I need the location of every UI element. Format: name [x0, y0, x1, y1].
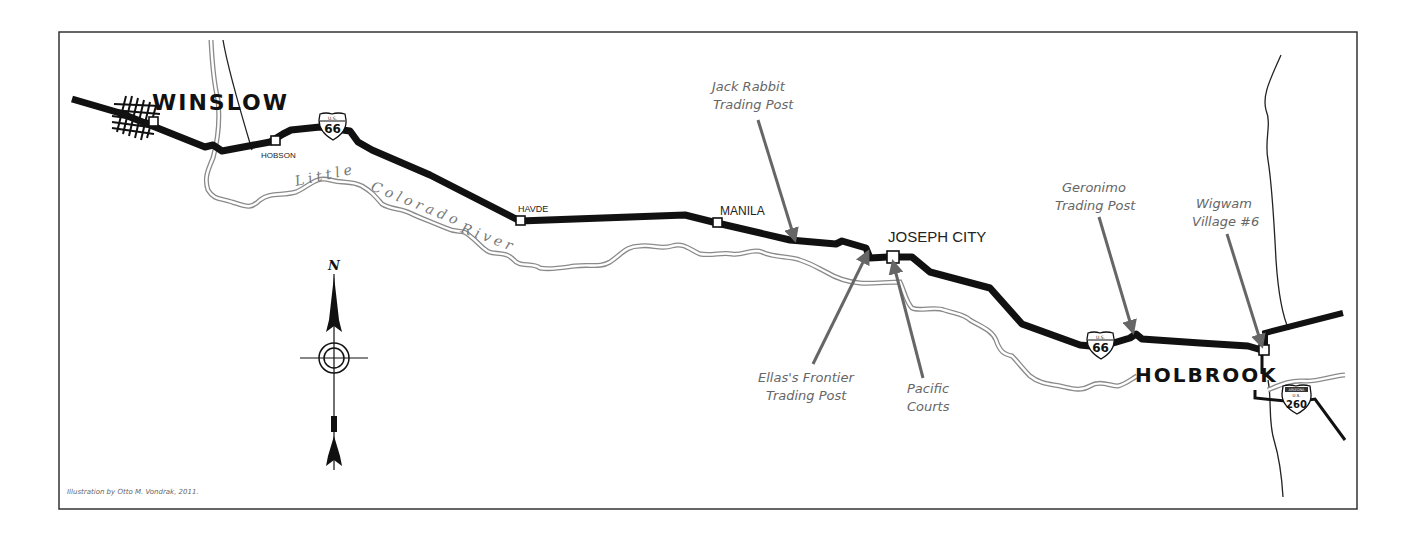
svg-text:Wigwam: Wigwam [1196, 196, 1252, 211]
svg-text:Courts: Courts [907, 399, 950, 414]
us66-shield-west: U.S. 66 [319, 113, 346, 140]
us66-shield-east: U.S. 66 [1087, 332, 1114, 359]
us260-shield: ARIZONA U.S. 260 [1282, 385, 1311, 414]
arrow-jack-rabbit [758, 120, 795, 240]
svg-text:Trading Post: Trading Post [1055, 198, 1136, 213]
svg-text:Ellas's Frontier: Ellas's Frontier [758, 370, 855, 385]
poi-wigwam-line2: Village #6 [1192, 214, 1259, 229]
town-markers [149, 117, 1269, 355]
town-label-holbrook: HOLBROOK [1135, 363, 1278, 387]
svg-text:Geronimo: Geronimo [1062, 180, 1126, 195]
svg-text:Jack Rabbit: Jack Rabbit [709, 79, 786, 94]
shield-top: U.S. [1292, 393, 1300, 398]
poi-jack-rabbit-line2: Trading Post [713, 97, 794, 112]
poi-ellas-line1: Ellas's Frontier [758, 370, 855, 385]
town-label-joseph-city: JOSEPH CITY [888, 228, 986, 245]
shield-number: 66 [324, 122, 341, 136]
svg-text:Trading Post: Trading Post [766, 388, 847, 403]
shield-top: U.S. [328, 116, 337, 121]
poi-geronimo-line2: Trading Post [1055, 198, 1136, 213]
shield-number: 260 [1286, 399, 1307, 410]
havde-marker [516, 216, 525, 225]
joseph-city-marker [887, 251, 899, 263]
poi-ellas-line2: Trading Post [766, 388, 847, 403]
town-label-havde: HAVDE [518, 204, 548, 214]
poi-wigwam-line1: Wigwam [1196, 196, 1252, 211]
svg-text:Trading Post: Trading Post [713, 97, 794, 112]
illustration-credit: Illustration by Otto M. Vondrak, 2011. [67, 488, 199, 496]
route-map: Little Colorado River WINSLOW HOBSON HAV… [0, 0, 1420, 537]
town-label-winslow: WINSLOW [152, 90, 289, 115]
poi-pacific-line1: Pacific [907, 381, 949, 396]
svg-text:Village #6: Village #6 [1192, 214, 1259, 229]
holbrook-marker [1259, 345, 1269, 355]
compass-rose: N [300, 258, 368, 470]
north-arrow-icon [326, 276, 342, 332]
north-label: N [327, 258, 341, 273]
route-66-east-road [1265, 313, 1343, 351]
poi-jack-rabbit-line1: Jack Rabbit [709, 79, 786, 94]
town-label-hobson: HOBSON [261, 151, 296, 160]
arrow-wigwam [1227, 234, 1262, 346]
shield-state: ARIZONA [1288, 388, 1305, 392]
shield-number: 66 [1092, 341, 1109, 355]
arrow-pacific [893, 262, 923, 378]
manila-marker [713, 218, 722, 227]
river-label-little: Little [292, 160, 357, 189]
poi-geronimo-line1: Geronimo [1062, 180, 1126, 195]
svg-text:Pacific: Pacific [907, 381, 949, 396]
shield-top: U.S. [1096, 335, 1105, 340]
winslow-marker [149, 117, 158, 126]
route-66-road [72, 99, 1265, 351]
arrow-geronimo [1099, 217, 1133, 332]
hobson-marker [271, 136, 280, 145]
town-label-manila: MANILA [720, 204, 765, 218]
poi-pacific-line2: Courts [907, 399, 950, 414]
